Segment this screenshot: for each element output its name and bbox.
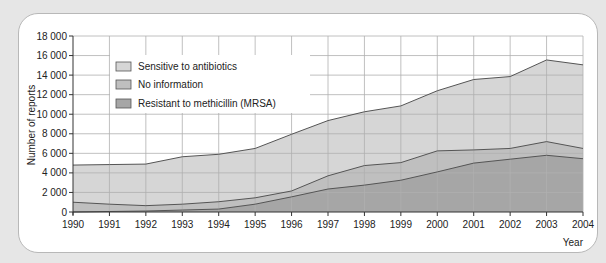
x-tick-label: 1998 (353, 219, 376, 230)
y-tick-label: 4 000 (42, 167, 67, 178)
legend-item: Resistant to methicillin (MRSA) (116, 98, 276, 109)
y-tick-label: 0 (61, 207, 67, 218)
x-tick-label: 1999 (390, 219, 413, 230)
x-tick-label: 2003 (535, 219, 558, 230)
y-tick-label: 12 000 (36, 89, 67, 100)
y-tick-label: 8 000 (42, 128, 67, 139)
x-tick-label: 1997 (317, 219, 340, 230)
legend-label: Sensitive to antibiotics (138, 61, 237, 72)
x-axis-title: Year (563, 237, 584, 248)
legend-swatch (116, 80, 131, 89)
legend-item: No information (116, 79, 203, 90)
y-axis-ticks: 02 0004 0006 0008 00010 00012 00014 0001… (36, 31, 73, 218)
legend: Sensitive to antibioticsNo informationRe… (110, 55, 310, 113)
x-tick-label: 2000 (426, 219, 449, 230)
x-tick-label: 2002 (499, 219, 522, 230)
y-tick-label: 2 000 (42, 187, 67, 198)
x-tick-label: 1995 (244, 219, 267, 230)
stacked-area-chart: 02 0004 0006 0008 00010 00012 00014 0001… (0, 0, 606, 263)
x-tick-label: 2004 (572, 219, 595, 230)
legend-label: Resistant to methicillin (MRSA) (138, 98, 276, 109)
legend-swatch (116, 99, 131, 108)
x-tick-label: 1990 (62, 219, 85, 230)
x-tick-label: 1994 (208, 219, 231, 230)
y-axis-title: Number of reports (26, 85, 37, 166)
x-tick-label: 1992 (135, 219, 158, 230)
x-tick-label: 1991 (98, 219, 121, 230)
x-tick-label: 1996 (280, 219, 303, 230)
legend-label: No information (138, 79, 203, 90)
y-tick-label: 10 000 (36, 109, 67, 120)
x-tick-label: 2001 (463, 219, 486, 230)
x-axis-ticks: 1990199119921993199419951996199719981999… (62, 212, 595, 230)
y-tick-label: 16 000 (36, 50, 67, 61)
x-tick-label: 1993 (171, 219, 194, 230)
legend-swatch (116, 62, 131, 71)
y-tick-label: 14 000 (36, 70, 67, 81)
y-tick-label: 18 000 (36, 31, 67, 42)
y-tick-label: 6 000 (42, 148, 67, 159)
